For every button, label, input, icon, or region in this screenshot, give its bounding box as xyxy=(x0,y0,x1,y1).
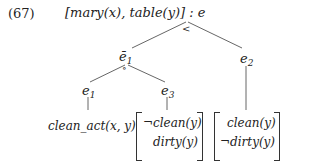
bracket-right-e2 xyxy=(274,112,280,161)
leaf-e2-line-1: clean(y) xyxy=(227,117,276,129)
node-base: e xyxy=(240,51,248,66)
node-base: e xyxy=(82,83,90,98)
bracket-left-e3 xyxy=(136,112,142,161)
node-base: ē xyxy=(119,49,127,64)
bracket-right-e3 xyxy=(197,112,203,161)
composition-relation: ∘ xyxy=(122,64,126,73)
node-base: e xyxy=(161,83,169,98)
leaf-e3-line-1: ¬clean(y) xyxy=(143,117,202,129)
node-e-3: e3 xyxy=(161,84,174,97)
leaf-e3-line-2: dirty(y) xyxy=(153,136,198,148)
node-sub: 1 xyxy=(90,90,96,100)
node-sub: 3 xyxy=(169,90,175,100)
node-sub: 2 xyxy=(248,58,254,68)
node-e-1: e1 xyxy=(82,84,95,97)
node-e-bar-1: ē1 xyxy=(119,50,132,63)
precedence-relation: < xyxy=(182,24,190,34)
node-e-2: e2 xyxy=(240,52,253,65)
leaf-e2-line-2: ¬dirty(y) xyxy=(220,136,275,148)
node-sub: 1 xyxy=(127,56,133,66)
leaf-clean-act: clean_act(x, y) xyxy=(48,120,136,132)
